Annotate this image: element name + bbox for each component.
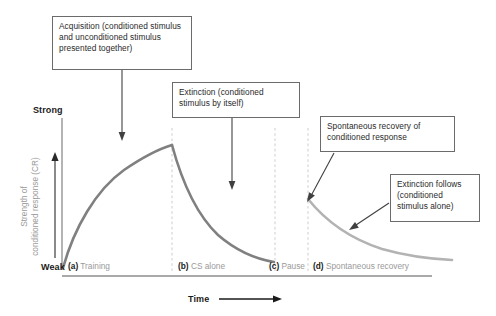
phase-name-c: Pause bbox=[281, 261, 305, 271]
extinction-callout-arrow-icon bbox=[229, 118, 236, 190]
phase-label-c: (c) Pause bbox=[269, 261, 305, 271]
y-axis-arrow-icon bbox=[51, 152, 58, 258]
acquisition-callout-arrow-icon bbox=[119, 70, 126, 141]
spontaneous-recovery-callout-arrow-icon bbox=[307, 153, 334, 202]
classical-conditioning-diagram: Acquisition (conditioned stimulus and un… bbox=[0, 0, 496, 316]
extinction-curve bbox=[172, 145, 274, 262]
time-axis-arrow-icon bbox=[219, 296, 282, 303]
callout-spontaneous-recovery: Spontaneous recovery of conditioned resp… bbox=[320, 116, 455, 152]
callout-acquisition: Acquisition (conditioned stimulus and un… bbox=[52, 16, 192, 70]
phase-tag-a: (a) bbox=[68, 261, 78, 271]
phase-label-d: (d) Spontaneous recovery bbox=[313, 261, 409, 271]
callout-extinction-follows: Extinction follows (conditioned stimulus… bbox=[390, 174, 480, 222]
phase-tag-d: (d) bbox=[313, 261, 324, 271]
phase-name-b: CS alone bbox=[191, 261, 225, 271]
phase-name-a: Training bbox=[80, 261, 110, 271]
y-axis-title: Strength of conditioned response (CR) bbox=[19, 142, 40, 272]
y-axis-bottom-label: Weak bbox=[41, 262, 65, 272]
phase-tag-b: (b) bbox=[178, 261, 189, 271]
extinction-follows-callout-arrow-icon bbox=[349, 203, 389, 230]
phase-label-a: (a) Training bbox=[68, 261, 110, 271]
acquisition-curve bbox=[63, 145, 172, 268]
phase-tag-c: (c) bbox=[269, 261, 279, 271]
phase-label-b: (b) CS alone bbox=[178, 261, 225, 271]
phase-name-d: Spontaneous recovery bbox=[326, 261, 409, 271]
callout-extinction: Extinction (conditioned stimulus by itse… bbox=[172, 82, 300, 118]
x-axis-label: Time bbox=[188, 294, 209, 304]
y-axis-top-label: Strong bbox=[33, 105, 63, 115]
